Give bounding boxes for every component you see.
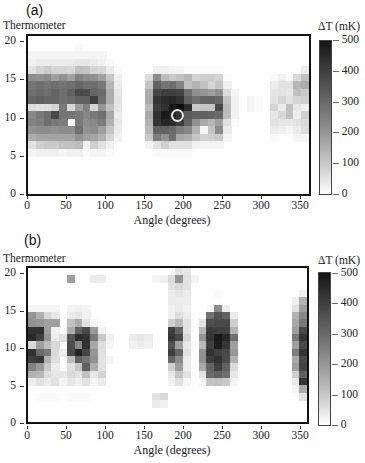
y-tick-label: 10 (0, 341, 16, 353)
x-tick-label: 350 (285, 199, 315, 211)
x-tick-mark (105, 426, 106, 429)
x-tick-label: 300 (246, 429, 276, 441)
heatmap-cell (98, 275, 106, 283)
heatmap-cell (51, 393, 59, 401)
x-tick-mark (261, 196, 262, 199)
heatmap-cell (270, 134, 278, 142)
panel-b-heatmap (26, 266, 309, 424)
panel-a-cells (28, 36, 309, 194)
x-tick-label: 50 (51, 429, 81, 441)
heatmap-cell (223, 134, 231, 142)
heatmap-cell (231, 119, 239, 127)
y-tick-label: 20 (0, 34, 16, 46)
x-tick-mark (261, 426, 262, 429)
colorbar-tick-label: – 100 (332, 388, 358, 400)
x-tick-mark (222, 196, 223, 199)
panel-a-heatmap (26, 34, 311, 196)
panel-b-x-axis-title: Angle (degrees) (72, 443, 272, 458)
colorbar-tick-label: – 200 (333, 125, 359, 137)
heatmap-cell (299, 393, 307, 401)
heatmap-cell (114, 134, 122, 142)
x-tick-label: 150 (129, 199, 159, 211)
y-tick-mark (20, 194, 24, 195)
colorbar-tick-label: – 0 (332, 418, 346, 430)
x-tick-mark (300, 426, 301, 429)
heatmap-cell (106, 149, 114, 157)
x-tick-mark (144, 196, 145, 199)
x-tick-mark (300, 196, 301, 199)
y-tick-mark (20, 41, 24, 42)
x-tick-label: 0 (12, 199, 42, 211)
heatmap-cell (98, 378, 106, 386)
panel-b-cells (28, 268, 307, 422)
heatmap-cell (301, 134, 309, 142)
x-tick-mark (144, 426, 145, 429)
x-tick-mark (27, 196, 28, 199)
colorbar-tick-label: – 400 (332, 296, 358, 308)
y-tick-mark (20, 118, 24, 119)
panel-a-colorbar (319, 40, 332, 195)
x-tick-mark (66, 196, 67, 199)
y-tick-mark (20, 348, 24, 349)
heatmap-cell (214, 290, 222, 298)
x-tick-mark (183, 196, 184, 199)
x-tick-label: 100 (90, 199, 120, 211)
x-tick-mark (183, 426, 184, 429)
heatmap-cell (160, 400, 168, 408)
x-tick-label: 150 (129, 429, 159, 441)
panel-b: (b) Thermometer ΔT (mK) 05101520 0501001… (0, 230, 365, 463)
x-tick-label: 50 (51, 199, 81, 211)
x-tick-mark (222, 426, 223, 429)
x-tick-mark (105, 196, 106, 199)
colorbar-tick-label: – 500 (333, 33, 359, 45)
y-tick-label: 20 (0, 266, 16, 278)
x-tick-label: 200 (168, 199, 198, 211)
y-tick-label: 0 (0, 187, 16, 199)
panel-b-y-axis-title: Thermometer (3, 252, 66, 264)
heatmap-cell (82, 393, 90, 401)
x-tick-label: 200 (168, 429, 198, 441)
colorbar-tick-label: – 500 (332, 266, 358, 278)
x-tick-mark (66, 426, 67, 429)
panel-a-colorbar-title: ΔT (mK) (318, 20, 360, 32)
y-tick-mark (20, 273, 24, 274)
y-tick-mark (20, 386, 24, 387)
y-tick-mark (20, 423, 24, 424)
y-tick-label: 15 (0, 72, 16, 84)
x-tick-label: 100 (90, 429, 120, 441)
colorbar-tick-label: – 200 (332, 357, 358, 369)
panel-a-y-axis-title: Thermometer (3, 19, 66, 31)
heatmap-cell (67, 275, 75, 283)
colorbar-tick-label: – 300 (333, 95, 359, 107)
y-tick-mark (20, 156, 24, 157)
heatmap-cell (191, 275, 199, 283)
heatmap-cell (215, 141, 223, 149)
panel-a-x-axis-title: Angle (degrees) (72, 213, 272, 228)
heatmap-cell (106, 341, 114, 349)
y-tick-label: 15 (0, 304, 16, 316)
heatmap-cell (183, 378, 191, 386)
colorbar-tick-label: – 0 (333, 187, 347, 199)
x-tick-mark (27, 426, 28, 429)
panel-a-label: (a) (26, 2, 43, 18)
y-tick-label: 5 (0, 379, 16, 391)
heatmap-cell (184, 149, 192, 157)
y-tick-label: 0 (0, 416, 16, 428)
y-tick-label: 5 (0, 149, 16, 161)
y-tick-label: 10 (0, 111, 16, 123)
panel-a: (a) Thermometer ΔT (mK) 05101520 0501001… (0, 0, 365, 230)
y-tick-mark (20, 79, 24, 80)
x-tick-label: 300 (246, 199, 276, 211)
x-tick-label: 250 (207, 429, 237, 441)
colorbar-tick-label: – 400 (333, 64, 359, 76)
panel-b-colorbar-title: ΔT (mK) (318, 254, 360, 266)
panel-b-label: (b) (24, 232, 41, 248)
colorbar-tick-label: – 300 (332, 327, 358, 339)
hotspot-circle-marker (171, 109, 184, 122)
heatmap-cell (106, 356, 114, 364)
colorbar-tick-label: – 100 (333, 156, 359, 168)
heatmap-cell (144, 341, 152, 349)
x-tick-label: 250 (207, 199, 237, 211)
heatmap-cell (254, 104, 262, 112)
x-tick-label: 350 (285, 429, 315, 441)
